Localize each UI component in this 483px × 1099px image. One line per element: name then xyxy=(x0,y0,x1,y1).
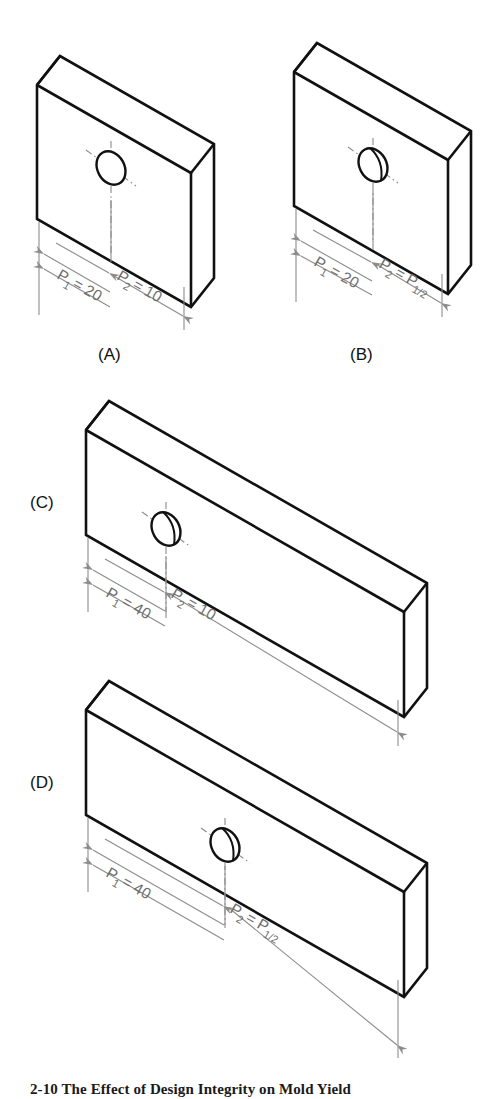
panel-d-block xyxy=(86,681,427,997)
panel-b-p1-text-group: P 1 = 20 xyxy=(310,253,363,295)
panel-c-block xyxy=(86,401,427,717)
panel-label-a: (A) xyxy=(98,345,121,364)
panel-c: P 1 = 40 P 2 = 10 (C) xyxy=(30,401,427,746)
panel-label-c: (C) xyxy=(30,493,54,512)
figure-root: P 1 = 20 P 2 = 10 (A) xyxy=(0,0,483,1099)
panel-d: P 1 = 40 P 2 = P 1/2 (D) xyxy=(30,681,427,1058)
panel-label-b: (B) xyxy=(350,345,373,364)
panel-label-d: (D) xyxy=(30,773,54,792)
panel-b: P 1 = 20 P 2 = P 1/2 (B) xyxy=(294,43,471,364)
panel-a-p1-value: 20 xyxy=(82,281,106,305)
figure-caption-clip: 2-10 The Effect of Design Integrity on M… xyxy=(0,1081,483,1099)
panel-a: P 1 = 20 P 2 = 10 (A) xyxy=(37,56,214,364)
isometric-plate-figure: P 1 = 20 P 2 = 10 (A) xyxy=(0,0,483,1099)
figure-caption: 2-10 The Effect of Design Integrity on M… xyxy=(30,1081,460,1098)
panel-a-p1-text-group: P 1 = 20 xyxy=(53,266,106,308)
